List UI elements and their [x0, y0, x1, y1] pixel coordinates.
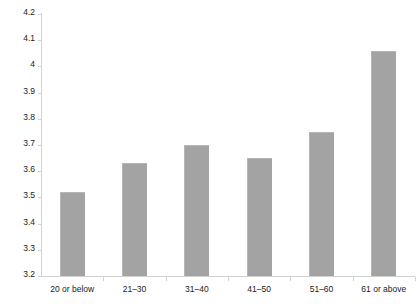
y-axis-tick-label: 4.2 [23, 8, 35, 17]
bar [184, 145, 209, 276]
y-axis-tick-label: 3.8 [23, 113, 35, 122]
y-axis-tick-label: 3.3 [23, 244, 35, 253]
x-axis-category-label: 61 or above [353, 284, 415, 294]
y-axis-tick-label: 3.4 [23, 218, 35, 227]
y-axis-tick-label: 4.1 [23, 34, 35, 43]
x-axis-category-label: 51–60 [290, 284, 352, 294]
x-axis-tick-mark [415, 277, 416, 281]
x-axis-category-label: 21–30 [103, 284, 165, 294]
bar [371, 51, 396, 276]
x-axis-tick-mark [103, 277, 104, 281]
x-axis-tick-mark [290, 277, 291, 281]
bar [60, 192, 85, 276]
bar [122, 163, 147, 276]
y-axis-tick-label: 4 [30, 60, 35, 69]
y-axis-tick-label: 3.9 [23, 87, 35, 96]
y-axis-tick-label: 3.2 [23, 270, 35, 279]
x-axis-tick-mark [166, 277, 167, 281]
bar-chart: 4.24.143.93.83.73.63.53.43.33.2 20 or be… [0, 0, 419, 308]
y-axis-tick-label: 3.7 [23, 139, 35, 148]
bar [247, 158, 272, 276]
x-axis-category-label: 20 or below [41, 284, 103, 294]
y-axis-tick-label: 3.5 [23, 191, 35, 200]
plot-area [41, 14, 415, 276]
y-axis-tick-label: 3.6 [23, 165, 35, 174]
x-axis-category-label: 41–50 [228, 284, 290, 294]
y-axis-tick-mark [38, 276, 41, 277]
x-axis-tick-mark [228, 277, 229, 281]
x-axis-category-label: 31–40 [166, 284, 228, 294]
x-axis-tick-mark [353, 277, 354, 281]
bar [309, 132, 334, 276]
